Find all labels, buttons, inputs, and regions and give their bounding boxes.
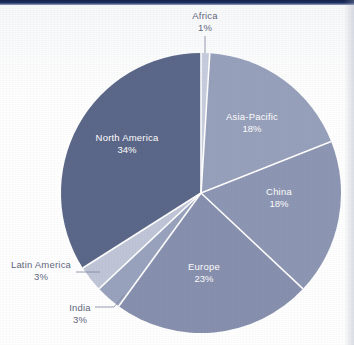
slice-value-asia-pacific: 18% [242, 123, 262, 134]
slice-label-china: China [266, 186, 292, 197]
slice-label-europe: Europe [188, 261, 220, 272]
slice-value-china: 18% [269, 198, 289, 209]
slice-value-north-america: 34% [117, 144, 137, 155]
chart-page: Africa1%Asia-Pacific18%China18%Europe23%… [0, 0, 354, 345]
slice-label-india: India [69, 302, 91, 313]
slice-value-africa: 1% [198, 22, 212, 33]
slice-value-latin-america: 3% [34, 271, 48, 282]
slice-label-africa: Africa [192, 10, 218, 21]
slice-label-north-america: North America [96, 132, 159, 143]
slice-label-latin-america: Latin America [11, 259, 72, 270]
slice-value-india: 3% [73, 314, 87, 325]
pie-chart-svg: Africa1%Asia-Pacific18%China18%Europe23%… [0, 0, 354, 345]
slice-label-asia-pacific: Asia-Pacific [226, 111, 278, 122]
pie-chart: Africa1%Asia-Pacific18%China18%Europe23%… [0, 0, 354, 345]
slice-value-europe: 23% [194, 273, 214, 284]
